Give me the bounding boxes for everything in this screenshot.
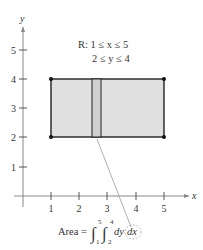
double-integral-area-diagram: 1 2 3 4 5 1 2 3 4 5 y x R: 1 ≤ x ≤ 5 2 ≤… [0,0,203,250]
differential-dx: dx [127,226,137,237]
x-axis-arrow-icon [184,194,190,198]
y-axis-arrow-icon [21,26,25,32]
corner-point [49,135,53,139]
y-tick-label: 1 [11,162,16,173]
region-constraint-y: 2 ≤ y ≤ 4 [92,53,131,64]
y-tick-label: 5 [11,45,16,56]
y-axis-label: y [19,13,25,24]
region-constraint-x: R: 1 ≤ x ≤ 5 [78,39,128,50]
x-tick-label: 4 [134,203,139,214]
x-axis-label: x [191,190,197,201]
y-tick-label: 2 [11,132,16,143]
inner-upper-limit: 4 [110,218,114,226]
leader-line [97,139,131,227]
x-tick-label: 3 [105,203,110,214]
vertical-strip [92,79,101,137]
corner-point [49,77,53,81]
y-tick-label: 4 [11,74,16,85]
integral-sign-icon: ∫ [101,224,108,244]
outer-lower-limit: 1 [96,238,100,246]
corner-point [162,77,166,81]
x-tick-label: 5 [162,203,167,214]
inner-lower-limit: 2 [108,238,112,246]
integrand-dy: dy [114,226,124,237]
formula-lhs: Area = [58,226,87,237]
x-tick-label: 2 [77,203,82,214]
x-tick-label: 1 [49,203,54,214]
y-tick-label: 3 [11,103,16,114]
corner-point [162,135,166,139]
region-rectangle [51,79,164,137]
